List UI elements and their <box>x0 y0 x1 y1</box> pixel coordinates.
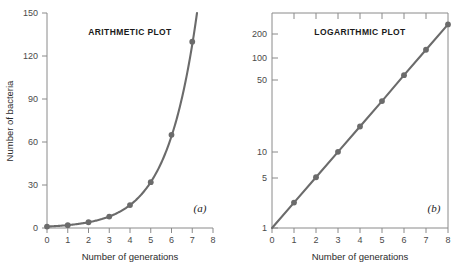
logarithmic-plot-title: LOGARITHMIC PLOT <box>314 27 406 37</box>
arithmetic-y-tick-120: 120 <box>23 51 38 61</box>
data-point <box>401 72 407 78</box>
data-point <box>65 222 71 228</box>
logarithmic-plot-panel: 1 5 10 50 100 200 0 1 2 <box>252 13 451 262</box>
arithmetic-y-tick-150: 150 <box>23 8 38 18</box>
logarithmic-panel-label: (b) <box>428 202 441 215</box>
arithmetic-x-ticks: 0 1 2 3 4 5 6 7 8 <box>44 228 215 245</box>
bacteria-growth-figure: Number of bacteria 0 30 60 90 120 150 <box>0 0 463 273</box>
logarithmic-x-tick-5: 5 <box>379 235 384 245</box>
logarithmic-y-ticks: 1 5 10 50 100 200 <box>252 29 278 233</box>
logarithmic-x-tick-6: 6 <box>401 235 406 245</box>
logarithmic-x-tick-3: 3 <box>335 235 340 245</box>
arithmetic-axes <box>47 13 213 228</box>
logarithmic-x-tick-2: 2 <box>313 235 318 245</box>
data-point <box>379 98 385 104</box>
arithmetic-x-tick-0: 0 <box>44 235 49 245</box>
data-point <box>127 202 133 208</box>
arithmetic-y-tick-0: 0 <box>33 223 38 233</box>
arithmetic-x-tick-3: 3 <box>107 235 112 245</box>
arithmetic-x-tick-7: 7 <box>190 235 195 245</box>
arithmetic-y-tick-60: 60 <box>28 137 38 147</box>
logarithmic-x-tick-1: 1 <box>291 235 296 245</box>
logarithmic-x-tick-0: 0 <box>269 235 274 245</box>
data-point <box>335 149 341 155</box>
data-point <box>313 174 319 180</box>
logarithmic-y-tick-5: 5 <box>262 173 267 183</box>
data-point <box>44 224 50 230</box>
logarithmic-y-tick-200: 200 <box>252 29 267 39</box>
logarithmic-y-tick-1: 1 <box>262 223 267 233</box>
arithmetic-panel-label: (a) <box>194 202 207 215</box>
arithmetic-y-tick-90: 90 <box>28 94 38 104</box>
arithmetic-x-axis-title: Number of generations <box>82 251 179 262</box>
arithmetic-plot-title: ARITHMETIC PLOT <box>88 27 172 37</box>
logarithmic-y-tick-100: 100 <box>252 53 267 63</box>
arithmetic-y-ticks: 0 30 60 90 120 150 <box>23 8 47 233</box>
arithmetic-x-tick-6: 6 <box>169 235 174 245</box>
arithmetic-data-line <box>47 13 197 227</box>
logarithmic-x-axis-title: Number of generations <box>312 251 409 262</box>
data-point <box>423 47 429 53</box>
data-point <box>291 200 297 206</box>
logarithmic-axes <box>272 13 448 228</box>
data-point <box>445 21 451 27</box>
arithmetic-x-tick-8: 8 <box>210 235 215 245</box>
arithmetic-x-tick-5: 5 <box>148 235 153 245</box>
logarithmic-y-tick-10: 10 <box>257 147 267 157</box>
data-point <box>169 132 175 138</box>
arithmetic-data-points <box>44 39 195 230</box>
arithmetic-x-tick-1: 1 <box>65 235 70 245</box>
logarithmic-x-tick-7: 7 <box>423 235 428 245</box>
data-point <box>189 39 195 45</box>
logarithmic-x-tick-4: 4 <box>357 235 362 245</box>
logarithmic-x-tick-8: 8 <box>445 235 450 245</box>
data-point <box>106 214 112 220</box>
arithmetic-y-tick-30: 30 <box>28 180 38 190</box>
data-point <box>86 219 92 225</box>
arithmetic-y-axis-title: Number of bacteria <box>4 80 15 162</box>
arithmetic-x-tick-4: 4 <box>127 235 132 245</box>
logarithmic-y-tick-50: 50 <box>257 75 267 85</box>
arithmetic-plot-panel: Number of bacteria 0 30 60 90 120 150 <box>4 8 216 262</box>
data-point <box>148 179 154 185</box>
data-point <box>357 124 363 130</box>
arithmetic-x-tick-2: 2 <box>86 235 91 245</box>
